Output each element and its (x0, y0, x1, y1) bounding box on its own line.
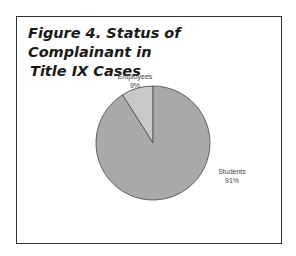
employees-label-name: Employees (110, 72, 160, 81)
pie-slice-students (96, 86, 210, 200)
slice-label-employees: Employees 9% (110, 72, 160, 90)
employees-label-pct: 9% (110, 81, 160, 90)
students-label-pct: 91% (212, 176, 252, 185)
pie-chart (0, 0, 296, 256)
students-label-name: Students (212, 167, 252, 176)
slice-label-students: Students 91% (212, 167, 252, 185)
